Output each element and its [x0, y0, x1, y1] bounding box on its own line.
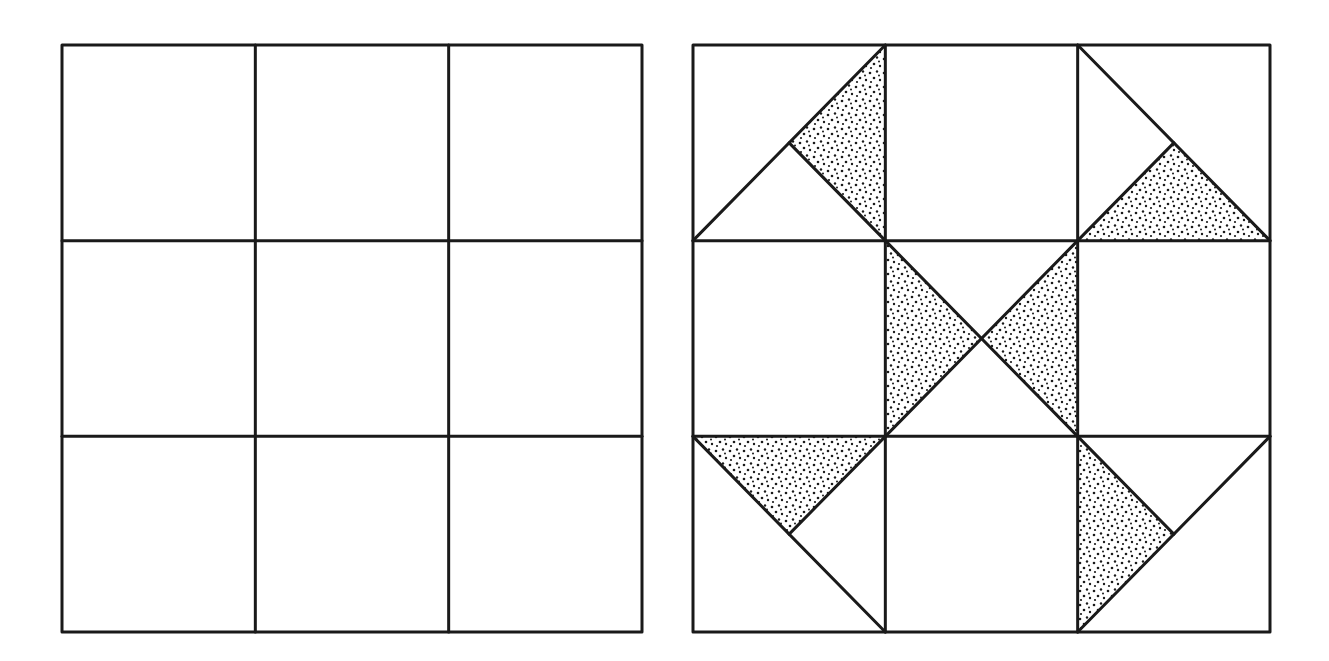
blank-nine-patch-block: [62, 45, 642, 632]
stippled-triangle: [693, 436, 885, 534]
diagram-canvas: Quilt block: blank 3x3 grid and shaded t…: [0, 0, 1329, 661]
stippled-triangle: [1078, 436, 1174, 632]
quilt-blocks-drawing: [0, 0, 1329, 661]
stippled-triangle: [885, 241, 981, 437]
stippled-triangle: [789, 45, 885, 241]
stippled-triangle: [982, 241, 1078, 437]
triangle-pattern-block: [693, 45, 1270, 632]
block-border: [62, 45, 642, 632]
stippled-triangle: [1078, 143, 1270, 241]
